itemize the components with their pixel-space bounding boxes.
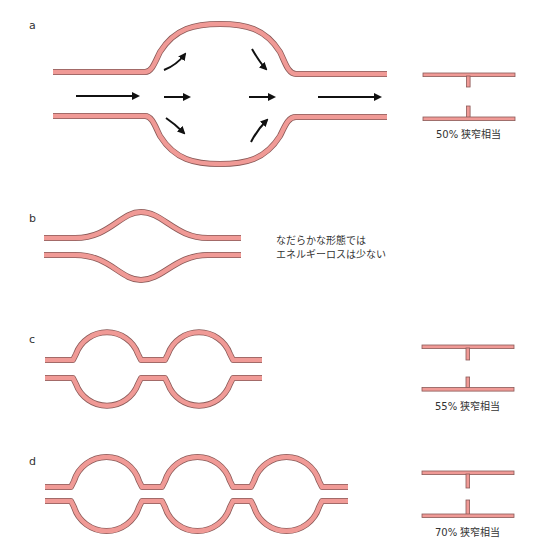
panel-b-note: なだらかな形態では エネルギーロスは少ない: [276, 234, 386, 262]
panel-label-c: c: [29, 333, 35, 346]
panel-d-vessel: [45, 457, 348, 531]
panel-a-vessel: [53, 24, 387, 164]
panel-b-upper-wall: [44, 212, 241, 238]
panel-d-upper-wall: [45, 457, 348, 487]
panel-b-note-line2: エネルギーロスは少ない: [276, 248, 386, 262]
panel-c-vessel: [45, 332, 262, 405]
panel-b-vessel: [44, 212, 241, 280]
panel-a-stenosis-equivalent: [423, 73, 515, 121]
flow-arrow-icon: [252, 49, 266, 69]
panel-a-flow-arrows: [76, 49, 380, 142]
panel-d-lower-wall: [45, 501, 348, 531]
flow-arrow-icon: [164, 54, 185, 70]
stenosis-caption-d: 70% 狭窄相当: [435, 524, 500, 539]
panel-d-stenosis-equivalent: [422, 471, 514, 518]
flow-arrow-icon: [166, 118, 184, 133]
stenosis-caption-c: 55% 狭窄相当: [435, 398, 500, 413]
panel-label-b: b: [29, 212, 36, 225]
panel-c-stenosis-equivalent: [422, 345, 514, 391]
panel-label-d: d: [29, 455, 36, 468]
panel-b-note-line1: なだらかな形態では: [276, 234, 386, 248]
panel-label-a: a: [29, 19, 36, 32]
stenosis-caption-a: 50% 狭窄相当: [436, 126, 501, 141]
flow-arrow-icon: [251, 120, 267, 142]
panel-a-upper-wall: [53, 24, 387, 74]
panel-a-lower-wall: [53, 116, 387, 164]
diagram-canvas: [0, 0, 536, 557]
panel-b-lower-wall: [44, 255, 241, 280]
